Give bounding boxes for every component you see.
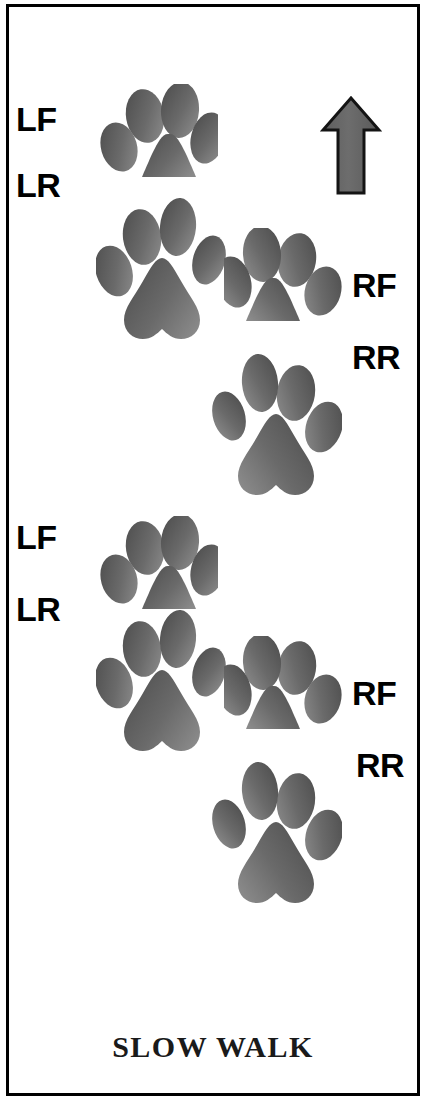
limb-label-rf-2: RF xyxy=(352,676,396,710)
paw-print-left-rear xyxy=(96,196,226,344)
paw-print-right-front xyxy=(224,228,342,334)
limb-label-rf-1: RF xyxy=(352,268,396,302)
limb-label-rr-1: RR xyxy=(352,340,400,374)
paw-print-right-front xyxy=(224,636,342,742)
paw-print-right-rear xyxy=(212,352,342,500)
paw-print-left-front xyxy=(100,84,218,190)
limb-label-rr-2: RR xyxy=(356,748,404,782)
paw-print-right-rear xyxy=(212,760,342,908)
caption-slow-walk: SLOW WALK xyxy=(0,1032,426,1062)
gait-diagram: LFLRRFRRLFLRRFRR SLOW WALK xyxy=(0,0,426,1102)
limb-label-lr-2: LR xyxy=(16,592,60,626)
paw-print-left-rear xyxy=(96,608,226,756)
limb-label-lf-1: LF xyxy=(16,102,57,136)
limb-label-lr-1: LR xyxy=(16,168,60,202)
direction-arrow-icon xyxy=(320,96,382,200)
paw-print-left-front xyxy=(100,516,218,622)
limb-label-lf-2: LF xyxy=(16,520,57,554)
